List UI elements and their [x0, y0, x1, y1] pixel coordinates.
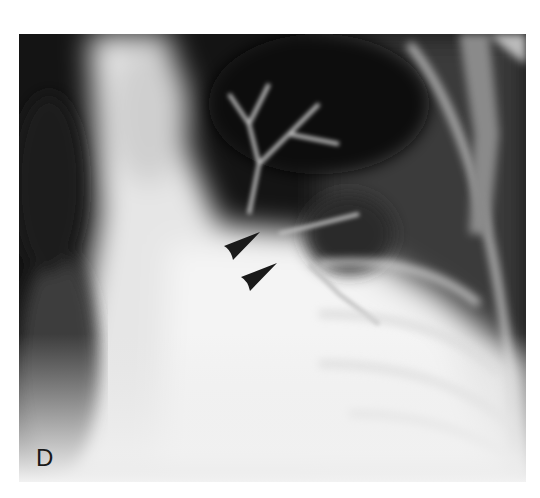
- panel-label: D: [36, 446, 53, 470]
- chest-xray-image: [19, 34, 526, 482]
